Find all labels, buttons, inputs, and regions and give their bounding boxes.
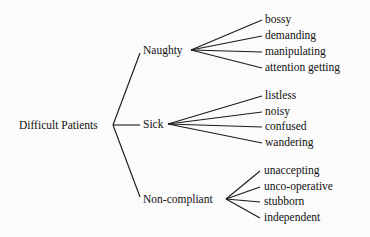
root-node: Difficult Patients [19,118,98,132]
leaf-item: stubborn [264,194,304,208]
leaf-item: unco-operative [264,179,333,193]
leaf-item: unaccepting [264,163,320,177]
edge-root-naughty [113,53,140,125]
category-non-compliant: Non-compliant [143,192,213,206]
leaf-item: manipulating [265,44,326,58]
category-naughty: Naughty [143,43,183,57]
leaf-item: demanding [265,28,316,42]
category-sick: Sick [143,117,163,131]
leaf-item: noisy [265,104,290,118]
leaf-item: wandering [265,135,314,149]
leaf-item: bossy [265,12,291,26]
leaf-item: confused [265,119,307,133]
leaf-item: listless [265,88,296,102]
leaf-item: attention getting [265,60,340,74]
leaf-item: independent [264,210,320,224]
edge-root-noncompliant [113,125,140,197]
